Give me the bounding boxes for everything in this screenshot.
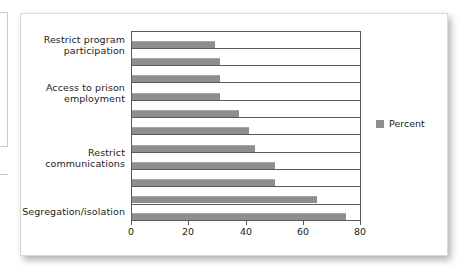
gridline bbox=[132, 152, 360, 153]
bar bbox=[132, 145, 255, 152]
category-label-prison-employment: Access to prison employment bbox=[21, 82, 125, 104]
category-label-restrict-communications: Restrict communications bbox=[21, 147, 125, 169]
gridline bbox=[132, 186, 360, 187]
legend-label-percent: Percent bbox=[389, 118, 425, 129]
bar bbox=[132, 162, 275, 169]
page-edge-rule-bottom bbox=[0, 174, 8, 175]
x-tick-mark bbox=[303, 221, 304, 225]
x-tick-label-20: 20 bbox=[173, 226, 203, 237]
category-label-restrict-program: Restrict program participation bbox=[21, 34, 125, 56]
page-edge-rule-middle bbox=[0, 146, 8, 147]
x-tick-label-80: 80 bbox=[345, 226, 375, 237]
x-tick-mark bbox=[131, 221, 132, 225]
x-tick-label-60: 60 bbox=[288, 226, 318, 237]
category-label-segregation-isolation: Segregation/isolation bbox=[21, 206, 125, 217]
gridline bbox=[132, 204, 360, 205]
bar bbox=[132, 41, 215, 48]
x-tick-label-40: 40 bbox=[231, 226, 261, 237]
gridline bbox=[132, 48, 360, 49]
plot-area bbox=[131, 31, 361, 221]
page-edge-artifact bbox=[0, 0, 12, 277]
bar bbox=[132, 58, 220, 65]
bar bbox=[132, 127, 249, 134]
bar bbox=[132, 75, 220, 82]
legend-swatch-percent bbox=[376, 120, 384, 128]
gridline bbox=[132, 169, 360, 170]
figure-card: Restrict program participation Access to… bbox=[20, 13, 448, 256]
bar-chart: Restrict program participation Access to… bbox=[21, 14, 449, 257]
gridline bbox=[132, 134, 360, 135]
x-tick-mark bbox=[188, 221, 189, 225]
x-tick-label-0: 0 bbox=[116, 226, 146, 237]
gridline bbox=[132, 82, 360, 83]
gridline bbox=[132, 117, 360, 118]
bar bbox=[132, 196, 317, 203]
page-edge-vertical-rule bbox=[7, 12, 8, 147]
bar bbox=[132, 110, 239, 117]
chart-legend: Percent bbox=[376, 118, 425, 129]
gridline bbox=[132, 100, 360, 101]
page-edge-rule-top bbox=[0, 12, 8, 13]
bar bbox=[132, 179, 275, 186]
bar bbox=[132, 93, 220, 100]
x-tick-mark bbox=[246, 221, 247, 225]
bar bbox=[132, 213, 346, 220]
gridline bbox=[132, 65, 360, 66]
x-tick-mark bbox=[360, 221, 361, 225]
